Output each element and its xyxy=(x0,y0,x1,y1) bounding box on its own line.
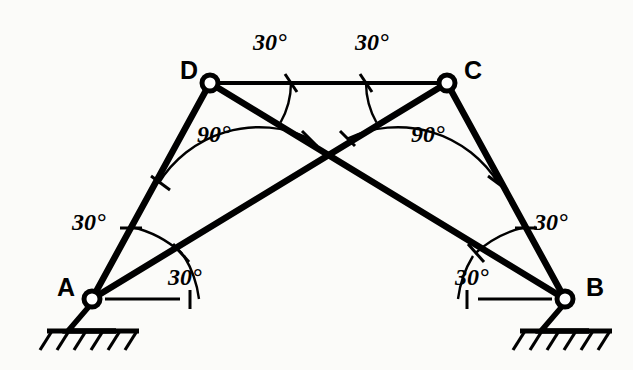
frame-drawing-canvas xyxy=(0,0,633,370)
joint-b xyxy=(557,291,573,307)
node-label-d: D xyxy=(180,58,198,83)
node-label-c: C xyxy=(464,58,482,83)
angle-label-a-lower: 30° xyxy=(168,265,202,289)
support-a xyxy=(40,303,139,350)
angle-label-b-upper: 30° xyxy=(534,210,568,234)
support-b xyxy=(513,303,612,350)
angle-label-d-interior: 90° xyxy=(197,122,231,146)
joint-a xyxy=(84,291,100,307)
angle-label-dc-right: 30° xyxy=(355,30,389,54)
angle-label-dc-left: 30° xyxy=(253,30,287,54)
joint-c xyxy=(439,75,455,91)
arc-d-top-30 xyxy=(281,83,292,123)
support-b-hatching xyxy=(513,331,610,350)
truss-members xyxy=(92,83,565,299)
node-label-a: A xyxy=(57,275,75,300)
node-label-b: B xyxy=(586,275,604,300)
joint-circles xyxy=(84,75,573,307)
support-a-hatching xyxy=(40,331,137,350)
frame-diagram: A B C D 30° 30° 90° 90° 30° 30° 30° 30° xyxy=(0,0,633,370)
angle-label-a-upper: 30° xyxy=(72,210,106,234)
angle-label-c-interior: 90° xyxy=(411,122,445,146)
angle-label-b-lower: 30° xyxy=(455,265,489,289)
joint-d xyxy=(202,75,218,91)
